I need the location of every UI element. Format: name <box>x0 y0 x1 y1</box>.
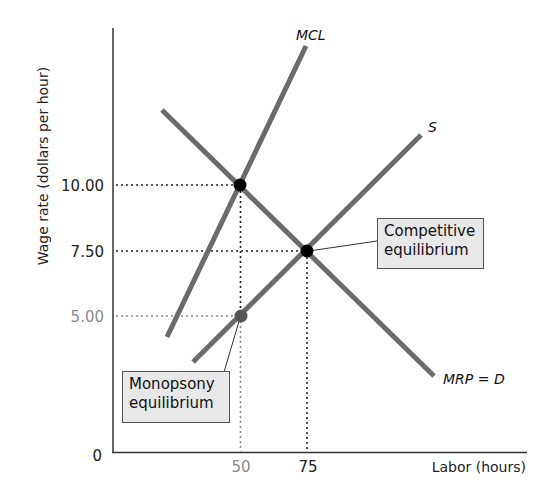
competitive-callout-line1: Competitive <box>384 222 477 241</box>
origin-label: 0 <box>92 447 102 465</box>
mcl-curve <box>167 46 306 337</box>
monopsony-callout-line2: equilibrium <box>129 394 223 413</box>
mcl-mrp-intersection-point <box>234 179 247 192</box>
s-label: S <box>428 119 437 135</box>
y-tick-5: 5.00 <box>71 308 104 326</box>
monopsony-equilibrium-point <box>235 310 248 323</box>
monopsony-equilibrium-callout: Monopsony equilibrium <box>122 371 230 423</box>
competitive-equilibrium-callout: Competitive equilibrium <box>377 218 484 269</box>
x-axis-title: Labor (hours) <box>432 459 526 475</box>
competitive-equilibrium-point <box>301 245 314 258</box>
competitive-connector <box>309 241 377 251</box>
y-tick-7-50: 7.50 <box>71 243 104 261</box>
x-tick-50: 50 <box>231 458 250 476</box>
y-tick-10: 10.00 <box>61 177 104 195</box>
monopsony-callout-line1: Monopsony <box>129 375 223 394</box>
x-tick-75: 75 <box>298 458 317 476</box>
mrp-label: MRP = D <box>443 371 505 387</box>
competitive-callout-line2: equilibrium <box>384 241 477 260</box>
mcl-label: MCL <box>296 27 326 43</box>
y-axis-title: Wage rate (dollars per hour) <box>35 67 51 265</box>
